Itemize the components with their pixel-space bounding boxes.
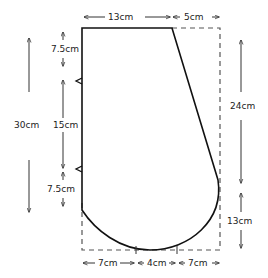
notch-upper (76, 78, 82, 84)
label-top-13cm: 13cm (107, 12, 134, 22)
dashed-bounding-box (82, 28, 220, 250)
label-30cm: 30cm (13, 120, 40, 130)
label-bottom-7cm-right: 7cm (187, 258, 208, 268)
label-bottom-4cm: 4cm (146, 258, 167, 268)
label-13cm-right: 13cm (226, 216, 253, 226)
pattern-outline (82, 28, 219, 250)
label-bottom-7cm-left: 7cm (97, 258, 118, 268)
label-7.5cm-top: 7.5cm (50, 44, 80, 54)
label-24cm: 24cm (229, 101, 256, 111)
label-15cm: 15cm (52, 120, 79, 130)
pattern-diagram (0, 0, 268, 278)
label-7.5cm-bottom: 7.5cm (46, 184, 76, 194)
label-top-5cm: 5cm (183, 12, 204, 22)
notch-lower (76, 166, 82, 172)
